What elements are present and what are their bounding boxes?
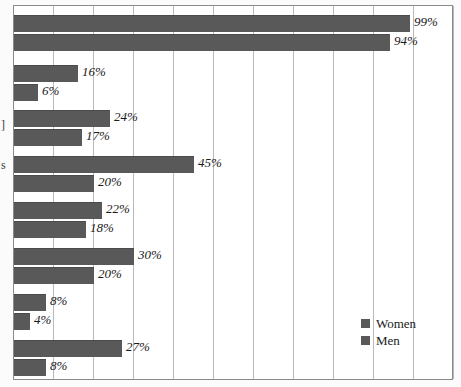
bar-men [14,34,390,51]
chart-legend: Women Men [361,316,416,350]
gridline [93,6,94,379]
bar-women [14,202,102,219]
bar-value-label: 94% [394,33,418,49]
bar-women [14,15,410,32]
bar-men [14,359,46,376]
bar-men [14,313,30,330]
bar-women [14,65,78,82]
bar-value-label: 8% [50,358,67,374]
legend-label-women: Women [376,316,416,332]
bar-value-label: 20% [98,266,122,282]
bar-women [14,110,110,127]
bar-value-label: 18% [90,220,114,236]
gridline [293,6,294,379]
legend-label-men: Men [376,333,400,349]
legend-swatch-men [361,336,370,345]
bar-value-label: 45% [198,155,222,171]
bar-chart: 99%94%16%6%24%17%45%20%22%18%30%20%8%4%2… [0,0,461,387]
bar-value-label: 27% [126,339,150,355]
bar-men [14,175,94,192]
bar-women [14,156,194,173]
bar-value-label: 30% [138,247,162,263]
bar-men [14,267,94,284]
legend-item-women[interactable]: Women [361,316,416,331]
gridline [453,6,454,379]
bar-value-label: 4% [34,312,51,328]
gridline [173,6,174,379]
gridline [333,6,334,379]
category-label-fragment: ] [1,118,5,133]
bar-women [14,294,46,311]
bar-value-label: 99% [414,14,438,30]
bar-value-label: 24% [114,109,138,125]
bar-men [14,221,86,238]
gridline [253,6,254,379]
bar-men [14,84,38,101]
bar-value-label: 16% [82,64,106,80]
bar-value-label: 20% [98,174,122,190]
bar-women [14,340,122,357]
legend-item-men[interactable]: Men [361,333,416,348]
category-label-fragment: s [1,158,6,173]
bar-value-label: 22% [106,201,130,217]
gridline [213,6,214,379]
bar-value-label: 6% [42,83,59,99]
bar-value-label: 8% [50,293,67,309]
bar-value-label: 17% [86,128,110,144]
gridline [133,6,134,379]
legend-swatch-women [361,319,370,328]
bar-women [14,248,134,265]
bar-men [14,129,82,146]
gridline [53,6,54,379]
